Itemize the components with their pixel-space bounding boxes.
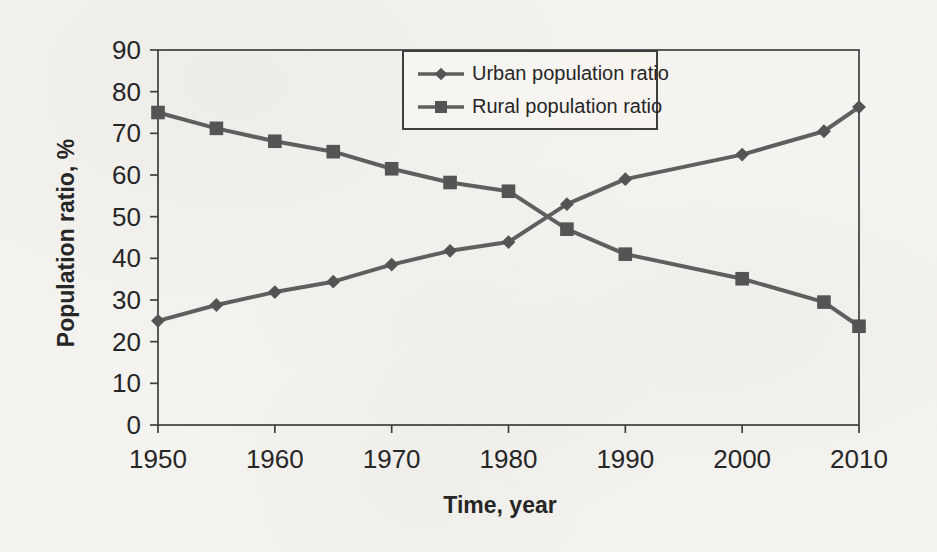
y-tick-label: 60 <box>112 160 141 190</box>
x-tick-label: 1960 <box>246 444 304 474</box>
rural-data-point <box>151 106 165 120</box>
x-tick-label: 1980 <box>480 444 538 474</box>
legend-label-urban: Urban population ratio <box>472 62 669 85</box>
x-tick-label: 1950 <box>129 444 187 474</box>
urban-data-point <box>268 285 282 299</box>
x-tick-label: 1970 <box>363 444 421 474</box>
y-tick-label: 0 <box>127 410 141 440</box>
x-axis-ticks: 1950196019701980199020002010 <box>129 425 888 474</box>
rural-data-point <box>619 247 633 261</box>
rural-series <box>151 106 866 333</box>
y-tick-label: 30 <box>112 285 141 315</box>
x-tick-label: 2000 <box>713 444 771 474</box>
rural-data-point <box>502 184 516 198</box>
y-tick-label: 90 <box>112 35 141 65</box>
urban-series <box>151 100 866 328</box>
y-axis-ticks: 0102030405060708090 <box>112 35 158 440</box>
rural-data-point <box>735 272 749 286</box>
y-tick-label: 70 <box>112 118 141 148</box>
legend-item-urban: Urban population ratio <box>417 62 656 85</box>
y-tick-label: 80 <box>112 77 141 107</box>
urban-data-point <box>735 148 749 162</box>
legend-label-rural: Rural population ratio <box>472 95 662 118</box>
y-tick-label: 20 <box>112 327 141 357</box>
x-axis-title: Time, year <box>443 492 556 519</box>
rural-data-point <box>326 145 340 159</box>
y-tick-label: 10 <box>112 368 141 398</box>
urban-data-point <box>618 172 632 186</box>
y-tick-label: 50 <box>112 202 141 232</box>
legend: Urban population ratio Rural population … <box>402 50 658 130</box>
urban-data-point <box>151 314 165 328</box>
urban-data-point <box>385 258 399 272</box>
rural-data-point <box>268 134 282 148</box>
legend-item-rural: Rural population ratio <box>417 95 656 118</box>
rural-data-point <box>852 319 866 333</box>
y-axis-title: Population ratio, % <box>53 139 80 347</box>
x-tick-label: 2010 <box>830 444 888 474</box>
urban-series-line-diamond-icon <box>417 65 465 83</box>
rural-series-line-square-icon <box>417 98 465 116</box>
rural-data-point <box>210 122 224 136</box>
chart-figure: 0102030405060708090195019601970198019902… <box>0 0 937 552</box>
rural-data-point <box>560 222 574 236</box>
rural-data-point <box>443 176 457 190</box>
rural-data-point <box>385 162 399 176</box>
urban-data-point <box>326 275 340 289</box>
y-tick-label: 40 <box>112 243 141 273</box>
x-tick-label: 1990 <box>596 444 654 474</box>
rural-data-point <box>817 295 831 309</box>
urban-data-point <box>209 298 223 312</box>
urban-data-point <box>443 244 457 258</box>
